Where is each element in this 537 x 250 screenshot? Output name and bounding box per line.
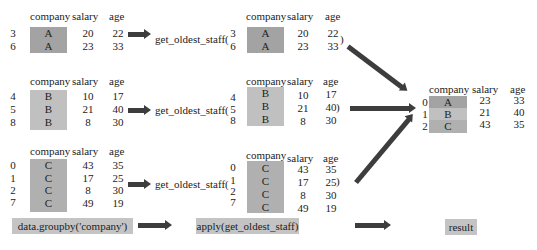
cell-salary: 21	[75, 103, 101, 115]
close-paren: )	[336, 101, 340, 113]
cell-company: B	[30, 116, 67, 128]
cell-salary: 8	[75, 116, 101, 128]
cell-salary: 21	[472, 106, 498, 118]
row-index: 4	[228, 91, 238, 103]
column-header-age: age	[325, 10, 340, 22]
cell-salary: 49	[75, 197, 101, 209]
column-header-salary: salary	[72, 10, 98, 22]
row-index: 6	[8, 40, 18, 52]
column-header-age: age	[323, 75, 338, 87]
cell-age: 19	[320, 202, 342, 214]
cell-company: B	[247, 87, 284, 99]
row-index: 0	[228, 161, 238, 173]
cell-company: C	[30, 172, 67, 184]
row-index: 8	[8, 116, 18, 128]
cell-salary: 8	[290, 115, 316, 127]
column-header-salary: salary	[287, 75, 313, 87]
column-header-company: company	[30, 10, 70, 22]
cell-salary: 23	[472, 94, 498, 106]
function-call-label: get_oldest_staff(	[155, 178, 229, 190]
cell-company: A	[247, 27, 284, 39]
cell-company: A	[429, 96, 467, 108]
cell-company: B	[247, 100, 284, 112]
step-apply-label: apply(get_oldest_staff)	[196, 218, 299, 234]
cell-company: B	[30, 103, 67, 115]
cell-company: C	[247, 201, 284, 213]
cell-salary: 10	[290, 89, 316, 101]
cell-company: C	[30, 159, 67, 171]
step-result-label: result	[445, 219, 477, 235]
cell-salary: 49	[290, 202, 316, 214]
row-index: 3	[8, 27, 18, 39]
cell-age: 30	[107, 116, 129, 128]
row-index: 5	[8, 103, 18, 115]
arrow-right-icon	[350, 106, 410, 111]
cell-age: 30	[320, 114, 342, 126]
cell-salary: 43	[75, 159, 101, 171]
arrow-right-icon	[128, 32, 145, 37]
step-groupby-label: data.groupby('company')	[12, 218, 133, 234]
cell-salary: 17	[75, 172, 101, 184]
cell-age: 35	[320, 163, 342, 175]
cell-age: 33	[508, 94, 530, 106]
function-call-label: get_oldest_staff(	[155, 33, 229, 45]
cell-company: C	[247, 188, 284, 200]
cell-company: C	[429, 120, 467, 132]
column-header-salary: salary	[287, 10, 313, 22]
arrow-diagonal-down-icon	[346, 45, 403, 90]
cell-age: 40	[107, 103, 129, 115]
close-paren: )	[340, 33, 344, 45]
cell-company: B	[30, 90, 67, 102]
column-header-salary: salary	[72, 75, 98, 87]
cell-salary: 23	[290, 40, 316, 52]
arrow-right-icon	[128, 182, 145, 187]
cell-company: C	[30, 184, 67, 196]
column-header-salary: salary	[72, 145, 98, 157]
cell-age: 17	[107, 90, 129, 102]
arrow-right-icon	[355, 223, 385, 228]
cell-salary: 43	[472, 118, 498, 130]
row-index: 8	[228, 114, 238, 126]
cell-age: 19	[107, 197, 129, 209]
row-index: 1	[8, 172, 18, 184]
cell-age: 30	[107, 184, 129, 196]
cell-salary: 8	[290, 189, 316, 201]
cell-age: 35	[107, 159, 129, 171]
arrow-right-icon	[138, 223, 166, 228]
function-call-label: get_oldest_staff(	[155, 104, 229, 116]
cell-age: 22	[107, 27, 129, 39]
row-index: 6	[228, 40, 238, 52]
cell-salary: 20	[290, 27, 316, 39]
cell-company: C	[247, 162, 284, 174]
cell-age: 30	[320, 189, 342, 201]
cell-salary: 23	[75, 40, 101, 52]
column-header-company: company	[246, 10, 286, 22]
row-index: 7	[8, 196, 18, 208]
cell-company: B	[429, 108, 467, 120]
row-index: 4	[8, 90, 18, 102]
column-header-company: company	[30, 145, 70, 157]
column-header-company: company	[30, 75, 70, 87]
cell-age: 35	[508, 118, 530, 130]
column-header-age: age	[109, 75, 124, 87]
row-index: 7	[228, 196, 238, 208]
cell-salary: 17	[290, 176, 316, 188]
row-index: 3	[228, 27, 238, 39]
column-header-age: age	[109, 145, 124, 157]
cell-salary: 43	[290, 163, 316, 175]
column-header-company: company	[246, 149, 286, 161]
row-index: 2	[8, 184, 18, 196]
cell-salary: 20	[75, 27, 101, 39]
cell-age: 40	[508, 106, 530, 118]
cell-company: B	[247, 113, 284, 125]
cell-company: A	[30, 27, 67, 39]
column-header-age: age	[109, 10, 124, 22]
cell-age: 25	[107, 172, 129, 184]
column-header-company: company	[246, 75, 286, 87]
cell-salary: 21	[290, 102, 316, 114]
cell-company: C	[247, 175, 284, 187]
cell-salary: 10	[75, 90, 101, 102]
column-header-company: company	[429, 83, 469, 95]
close-paren: )	[336, 175, 340, 187]
arrow-diagonal-up-icon	[354, 117, 411, 184]
